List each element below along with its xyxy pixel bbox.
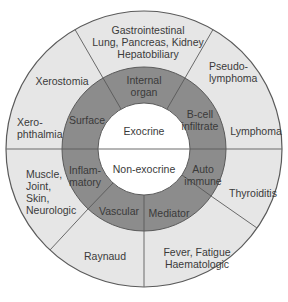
middle-label-auto-immune: Auto immune xyxy=(184,163,221,187)
center-label-exocrine: Exocrine xyxy=(124,125,165,137)
middle-label-surface: Surface xyxy=(69,114,105,126)
middle-label-vascular: Vascular xyxy=(99,205,139,217)
outer-label-raynaud: Raynaud xyxy=(84,250,126,262)
outer-label-muscle-joint: Muscle, Joint, Skin, Neurologic xyxy=(26,168,76,216)
outer-label-fever-fatigue: Fever, Fatigue Haematologic xyxy=(163,246,230,270)
middle-label-mediator: Mediator xyxy=(149,207,190,219)
outer-label-xerostomia: Xerostomia xyxy=(35,75,88,87)
outer-label-lymphoma: Lymphoma xyxy=(230,125,282,137)
middle-label-internal-organ: Internal organ xyxy=(126,74,161,98)
outer-label-gastrointestinal: Gastrointestinal Lung, Pancreas, Kidney … xyxy=(92,24,204,60)
outer-label-pseudolymphoma: Pseudo- lymphoma xyxy=(209,60,257,84)
center-label-non-exocrine: Non-exocrine xyxy=(113,163,175,175)
outer-label-xerophthalmia: Xero- phthalmia xyxy=(17,116,63,140)
outer-label-thyroiditis: Thyroiditis xyxy=(229,187,277,199)
middle-label-b-cell-infiltrate: B-cell infiltrate xyxy=(182,108,219,132)
